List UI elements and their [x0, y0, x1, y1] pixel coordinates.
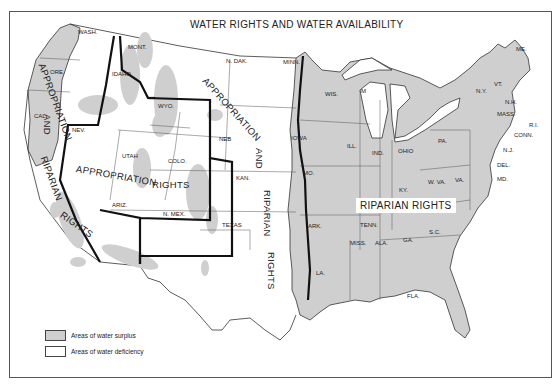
state-label-idaho: IDAHO [112, 71, 131, 77]
legend-item-deficiency: Areas of water deficiency [45, 343, 144, 359]
state-label-mont: MONT. [128, 44, 147, 50]
state-label-nh: N.H. [505, 99, 517, 105]
state-label-ky: KY. [399, 187, 408, 193]
state-label-nmex: N. MEX. [163, 211, 185, 217]
state-label-wyo: WYO. [158, 103, 174, 109]
state-label-ala: ALA. [375, 240, 388, 246]
legend-label-deficiency: Areas of water deficiency [71, 348, 144, 355]
state-label-ind: IND. [372, 150, 384, 156]
state-label-ga: GA. [403, 237, 413, 243]
region-label-interior-rights: RIGHTS [152, 180, 190, 190]
state-label-ark: ARK. [308, 223, 322, 229]
state-label-mo: MO. [303, 170, 314, 176]
state-label-mass: MASS. [497, 111, 516, 117]
state-label-kan: KAN. [236, 175, 250, 181]
state-label-ill: ILL. [347, 143, 357, 149]
state-label-sc: S.C. [429, 229, 441, 235]
state-label-ore: ORE. [50, 69, 65, 75]
state-label-ri: R.I. [529, 122, 538, 128]
state-label-wash: WASH. [78, 29, 97, 35]
state-label-iowa: IOWA [291, 135, 307, 141]
state-label-la: LA. [316, 270, 325, 276]
deficiency-swatch [45, 346, 66, 357]
state-label-miss: MISS. [350, 240, 366, 246]
state-label-me: ME. [516, 46, 527, 52]
state-label-ny: N.Y. [476, 88, 487, 94]
state-label-minn: MINN. [283, 59, 300, 65]
state-label-tenn: TENN. [360, 222, 378, 228]
state-label-va: VA. [455, 177, 464, 183]
state-label-m: M [361, 88, 366, 94]
state-label-neb: NEB [219, 136, 231, 142]
region-label-plains-and: AND [255, 148, 265, 169]
map-legend: Areas of water surplus Areas of water de… [45, 327, 144, 359]
state-label-del: DEL. [497, 162, 510, 168]
state-label-wva: W. VA. [428, 179, 446, 185]
region-label-plains-riparian: RIPARIAN [263, 190, 273, 237]
state-label-vt: VT. [494, 81, 503, 87]
state-label-nj: N.J. [503, 147, 514, 153]
state-label-ndak: N. DAK. [226, 58, 248, 64]
map-title: WATER RIGHTS AND WATER AVAILABILITY [190, 19, 404, 30]
legend-label-surplus: Areas of water surplus [71, 332, 136, 339]
state-label-ariz: ARIZ. [112, 202, 127, 208]
state-label-nev: NEV. [72, 127, 85, 133]
surplus-swatch [45, 330, 66, 341]
state-label-wis: WIS. [325, 91, 338, 97]
state-label-ohio: OHIO [398, 148, 413, 154]
state-label-md: MD. [497, 176, 508, 182]
state-label-utah: UTAH [122, 153, 138, 159]
state-label-conn: CONN. [514, 132, 533, 138]
region-label-west-and: AND [43, 114, 53, 135]
state-label-texas: TEXAS [222, 222, 242, 228]
state-label-fla: FLA. [407, 293, 420, 299]
region-label-east-riparian: RIPARIAN RIGHTS [356, 198, 456, 213]
state-label-pa: PA. [438, 138, 447, 144]
legend-item-surplus: Areas of water surplus [45, 327, 144, 343]
region-label-plains-rights: RIGHTS [267, 252, 277, 290]
state-label-colo: COLO. [168, 158, 187, 164]
